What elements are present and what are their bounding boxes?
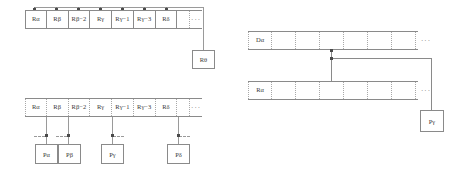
right-drop-line [431, 58, 432, 110]
tape-cell[interactable]: Rγ−3 [134, 99, 156, 116]
right-vertical-connector [331, 50, 332, 81]
bottomleft-link-1 [68, 117, 69, 135]
tape-cell[interactable]: Rγ [90, 11, 112, 28]
right-node-box-p-gamma[interactable]: Pγ [420, 110, 444, 132]
bottomleft-stub-0 [46, 137, 47, 144]
right-horizontal-run [333, 58, 431, 59]
bottomleft-node-box-p-alpha[interactable]: Pα [35, 144, 58, 164]
figure-root: Rα Rβ Rβ−2 Rγ Rγ−1 Rγ−3 Rδ ··· Rθ Rα Rβ … [0, 0, 466, 178]
bottomleft-link-3 [178, 117, 179, 135]
tape-cell[interactable]: Rγ−1 [112, 11, 134, 28]
tape-cell[interactable] [296, 82, 320, 99]
topleft-tape: Rα Rβ Rβ−2 Rγ Rγ−1 Rγ−3 Rδ ··· [25, 10, 202, 29]
tape-cell[interactable] [320, 82, 344, 99]
tape-cell[interactable]: Rβ−2 [69, 11, 91, 28]
tape-cell[interactable]: Dα [248, 32, 272, 49]
tape-cell[interactable] [344, 32, 368, 49]
bottomleft-dashed-0 [34, 136, 45, 137]
tape-cell[interactable]: Rβ−2 [69, 99, 91, 116]
bottomleft-node-box-p-beta[interactable]: Pβ [58, 144, 81, 164]
topleft-drop-line [203, 7, 204, 50]
bottomleft-node-box-p-gamma[interactable]: Pγ [101, 144, 124, 164]
bottomleft-dashed-2 [113, 136, 124, 137]
tape-cell[interactable] [392, 32, 416, 49]
tape-cell[interactable]: Rα [25, 11, 47, 28]
bottomleft-stub-3 [178, 137, 179, 144]
tape-cell[interactable] [320, 32, 344, 49]
tape-cell[interactable] [272, 82, 296, 99]
topleft-node-box-r-theta[interactable]: Rθ [192, 50, 215, 69]
tape-cell[interactable]: Rγ [90, 99, 112, 116]
tape-cell[interactable] [392, 82, 416, 99]
tape-cell[interactable] [177, 11, 190, 28]
tape-cell[interactable]: Rγ−1 [112, 99, 134, 116]
bottomleft-node-box-p-delta[interactable]: Pδ [167, 144, 190, 164]
tape-cell[interactable] [296, 32, 320, 49]
bottomleft-tape: Rα Rβ Rβ−2 Rγ Rγ−1 Rγ−3 Rδ ··· [25, 98, 202, 117]
tape-cell[interactable] [368, 82, 392, 99]
topleft-connector-rail [34, 7, 203, 8]
right-top-tape: Dα [248, 31, 418, 50]
bottomleft-ellipsis: ··· [190, 99, 202, 116]
tape-cell[interactable] [177, 99, 190, 116]
tape-cell[interactable]: Rβ [47, 11, 69, 28]
bottomleft-link-0 [46, 117, 47, 135]
tape-cell[interactable]: Rδ [156, 11, 178, 28]
tape-cell[interactable]: Rα [248, 82, 272, 99]
bottomleft-dashed-3 [179, 136, 190, 137]
right-marker-top [330, 49, 333, 52]
tape-cell[interactable]: Rγ−3 [134, 11, 156, 28]
tape-cell[interactable]: Rβ [47, 99, 69, 116]
topleft-ellipsis: ··· [190, 11, 202, 28]
tape-cell[interactable] [368, 32, 392, 49]
bottomleft-link-2 [112, 117, 113, 135]
tape-cell[interactable]: Rδ [156, 99, 178, 116]
bottomleft-stub-2 [112, 137, 113, 144]
bottomleft-dashed-1 [56, 136, 67, 137]
tape-cell[interactable]: Rα [25, 99, 47, 116]
bottomleft-stub-1 [68, 137, 69, 144]
right-bottom-tape: Rα [248, 81, 418, 100]
tape-cell[interactable] [272, 32, 296, 49]
right-top-ellipsis: ··· [419, 35, 433, 47]
tape-cell[interactable] [344, 82, 368, 99]
